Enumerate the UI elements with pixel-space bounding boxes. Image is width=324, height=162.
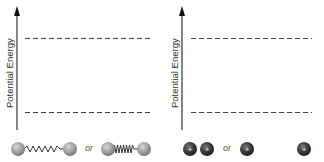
plus-icon: +: [245, 145, 250, 154]
y-axis-label: Potential Energy: [4, 38, 15, 108]
stretched-spring-molecule: [11, 142, 77, 156]
far-positive-charges: + +: [240, 142, 311, 156]
charge-energy-diagram: + + + + Potential Energy or: [162, 0, 324, 162]
spring-energy-graphic: [0, 0, 162, 162]
charge-energy-graphic: + + + +: [162, 0, 324, 162]
y-axis-label: Potential Energy: [169, 38, 180, 108]
plus-icon: +: [302, 145, 307, 154]
close-positive-charges: + +: [183, 142, 214, 156]
or-connector: or: [223, 143, 231, 153]
plus-icon: +: [205, 145, 210, 154]
spring-energy-diagram: Potential Energy or: [0, 0, 162, 162]
compressed-spring-molecule: [101, 142, 151, 156]
plus-icon: +: [188, 145, 193, 154]
or-connector: or: [85, 143, 93, 153]
